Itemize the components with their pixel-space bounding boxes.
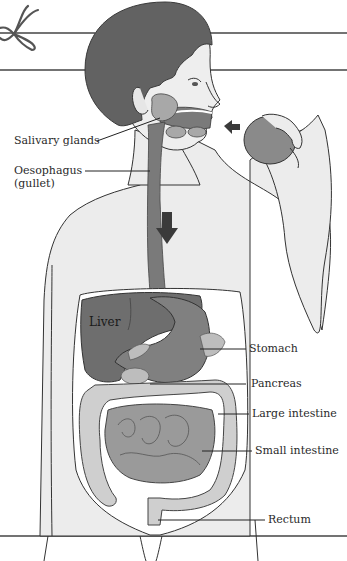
small-intestine: [105, 404, 215, 483]
label-rectum: Rectum: [268, 514, 311, 526]
label-salivary-glands: Salivary glands: [14, 135, 100, 147]
label-pancreas: Pancreas: [251, 378, 302, 390]
digestive-system-diagram: Salivary glands Oesophagus (gullet) Live…: [0, 0, 347, 561]
label-large-intestine: Large intestine: [252, 408, 337, 420]
label-stomach: Stomach: [249, 343, 298, 355]
label-gullet: (gullet): [14, 178, 55, 190]
label-oesophagus: Oesophagus: [14, 165, 82, 177]
ribbon-decoration-icon: [0, 6, 38, 50]
label-small-intestine: Small intestine: [255, 445, 339, 457]
diagram-illustration: [0, 0, 347, 561]
label-liver: Liver: [89, 316, 120, 328]
arrow-left-icon: [224, 120, 240, 134]
